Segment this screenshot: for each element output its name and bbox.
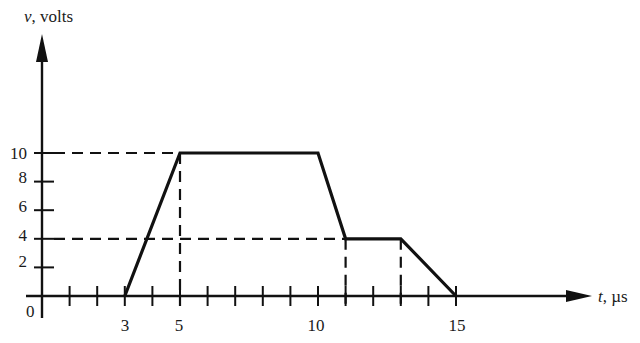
y-tick-label-2: 2 <box>19 252 28 271</box>
y-axis-label: v, volts <box>24 7 73 26</box>
y-axis-arrow-icon <box>36 34 48 62</box>
x-tick-label-3: 3 <box>121 316 130 335</box>
x-axis-label: t, µs <box>598 287 628 306</box>
tick-marks <box>34 153 456 306</box>
y-tick-label-8: 8 <box>19 168 28 187</box>
reference-dashed-lines <box>54 153 401 306</box>
x-axis-arrow-icon <box>566 290 592 302</box>
axes <box>26 34 592 318</box>
origin-label: 0 <box>26 302 35 321</box>
voltage-time-chart: v, volts t, µs 0 3 5 10 15 10 8 6 4 2 <box>0 0 640 343</box>
y-tick-label-4: 4 <box>19 226 28 245</box>
x-tick-label-5: 5 <box>175 316 184 335</box>
y-tick-label-6: 6 <box>19 197 28 216</box>
x-tick-label-15: 15 <box>449 316 466 335</box>
x-tick-label-10: 10 <box>308 316 325 335</box>
waveform-line <box>125 153 456 296</box>
y-tick-label-10: 10 <box>10 144 27 163</box>
x-tick-labels: 3 5 10 15 <box>121 316 466 335</box>
y-tick-labels: 10 8 6 4 2 <box>10 144 28 271</box>
